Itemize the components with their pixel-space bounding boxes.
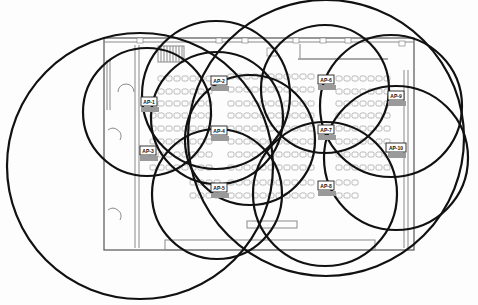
access-point-ap-3: AP-3 (140, 146, 158, 161)
access-point-ap-5: AP-5 (211, 183, 229, 198)
access-point-label: AP-1 (143, 99, 155, 105)
access-point-label: AP-4 (213, 128, 225, 134)
stairs (158, 46, 184, 62)
access-point-ap-7: AP-7 (318, 125, 336, 140)
door (118, 84, 134, 92)
access-point-ap-2: AP-2 (211, 76, 229, 91)
access-point-label: AP-2 (213, 78, 225, 84)
access-point-ap-9: AP-9 (388, 91, 406, 106)
access-point-label: AP-6 (320, 77, 332, 83)
access-point-ap-10: AP-10 (386, 143, 406, 158)
access-point-label: AP-8 (320, 183, 332, 189)
access-point-ap-6: AP-6 (318, 75, 336, 90)
access-point-ap-1: AP-1 (141, 97, 159, 112)
door (108, 208, 121, 220)
coverage-diagram: AP-1AP-2AP-3AP-4AP-5AP-6AP-7AP-8AP-9AP-1… (0, 0, 478, 305)
floor-plan-svg: AP-1AP-2AP-3AP-4AP-5AP-6AP-7AP-8AP-9AP-1… (0, 0, 478, 305)
access-point-label: AP-10 (389, 145, 403, 151)
access-point-label: AP-9 (390, 93, 402, 99)
access-point-ap-4: AP-4 (211, 126, 229, 141)
door (108, 128, 121, 140)
access-point-label: AP-5 (213, 185, 225, 191)
access-point-label: AP-7 (320, 127, 332, 133)
access-point-ap-8: AP-8 (318, 181, 336, 196)
access-point-label: AP-3 (142, 148, 154, 154)
